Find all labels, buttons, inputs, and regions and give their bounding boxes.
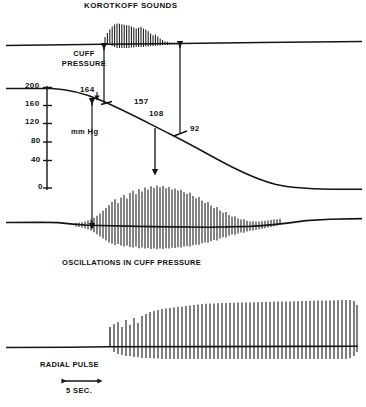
korotkoff-baseline-trace (6, 41, 362, 45)
oscillation-spikes (76, 186, 280, 250)
radial-pulse-spikes (114, 300, 357, 359)
recording-traces (0, 0, 366, 407)
physiological-recording-figure: KOROTKOFF SOUNDS CUFF PRESSURE 200 160 1… (0, 0, 366, 407)
cuff-pressure-decay-curve (6, 89, 362, 190)
